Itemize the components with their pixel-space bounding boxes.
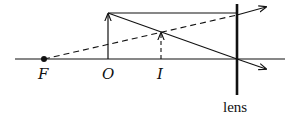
- label-f: F: [37, 65, 49, 83]
- label-o: O: [102, 65, 114, 83]
- extension-from-f: [44, 15, 237, 59]
- ray-diagram: F O I lens: [0, 0, 297, 117]
- refracted-ray-top: [237, 7, 266, 15]
- label-i: I: [156, 65, 164, 83]
- center-ray: [108, 13, 237, 59]
- label-lens: lens: [223, 99, 247, 115]
- center-ray-exit: [237, 59, 266, 69]
